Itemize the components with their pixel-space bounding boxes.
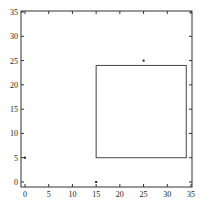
y-tick-label: 10 xyxy=(10,129,18,138)
x-tick-label: 25 xyxy=(140,190,148,199)
x-tick-label: 15 xyxy=(92,190,100,199)
x-tick-label: 20 xyxy=(116,190,124,199)
x-tick-label: 35 xyxy=(187,190,195,199)
x-tick-label: 30 xyxy=(163,190,171,199)
x-tick-label: 5 xyxy=(47,190,51,199)
x-axis-ticks: 05101520253035 xyxy=(23,11,195,199)
y-tick-label: 5 xyxy=(14,154,18,163)
y-tick-label: 30 xyxy=(10,32,18,41)
y-axis-ticks: 05101520253035 xyxy=(10,8,192,187)
axes-box xyxy=(21,11,192,187)
plot-frame xyxy=(21,11,192,187)
data-rectangle xyxy=(96,65,186,157)
x-tick-label: 10 xyxy=(68,190,76,199)
y-tick-label: 20 xyxy=(10,81,18,90)
rectangle-layer xyxy=(96,65,186,157)
data-point xyxy=(95,181,97,183)
points-layer xyxy=(24,60,145,183)
y-tick-label: 0 xyxy=(14,178,18,187)
data-point xyxy=(143,60,145,62)
y-tick-label: 15 xyxy=(10,105,18,114)
y-tick-label: 25 xyxy=(10,57,18,66)
data-point xyxy=(24,157,26,159)
x-tick-label: 0 xyxy=(23,190,27,199)
y-tick-label: 35 xyxy=(10,8,18,17)
scatter-chart: 05101520253035 05101520253035 xyxy=(0,0,206,206)
